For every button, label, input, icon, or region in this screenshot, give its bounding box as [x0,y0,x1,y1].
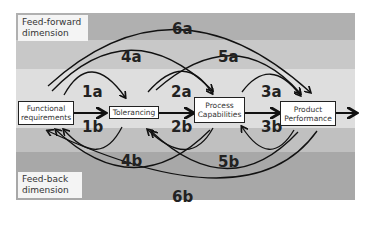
arc-label-3a: 3a [261,85,282,100]
box-functional-requirements: Functional requirements [18,101,74,125]
arc-label-4b: 4b [121,154,142,169]
arc-label-3b: 3b [261,120,282,135]
arc-label-6a: 6a [172,22,193,37]
box-product-performance: Product Performance [280,101,336,126]
box-tolerancing: Tolerancing [109,106,159,119]
arc-label-5a: 5a [218,50,239,65]
arc-label-6b: 6b [172,190,193,205]
box-process-capabilities: Process Capabilities [194,97,245,123]
arc-label-1b: 1b [82,120,103,135]
arc-label-2b: 2b [171,120,192,135]
arc-label-2a: 2a [171,85,192,100]
arc-label-5b: 5b [218,155,239,170]
arc-label-1a: 1a [82,85,103,100]
arc-label-4a: 4a [121,50,142,65]
